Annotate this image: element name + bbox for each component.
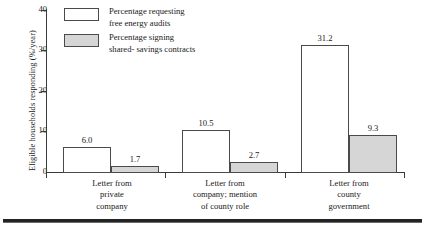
- bar-value-group1-series1: 2.7: [230, 151, 278, 160]
- legend-swatch-requesting-audits: [64, 8, 99, 21]
- bar-group2-series0: [301, 45, 349, 173]
- legend-label-1: Percentage signing shared- savings contr…: [109, 32, 195, 55]
- legend-label-0-line1: Percentage requesting: [109, 6, 185, 18]
- x-category-label-2: Letter from county government: [293, 178, 405, 212]
- bottom-rule-hairline: [3, 222, 422, 223]
- x-category-label-0: Letter from private company: [56, 178, 168, 212]
- legend-label-1-line2: shared- savings contracts: [109, 44, 195, 56]
- x-category-label-1-line3: of county role: [169, 201, 281, 212]
- y-tick-label-0: 0: [17, 167, 47, 176]
- x-category-label-2-line2: county: [293, 189, 405, 200]
- legend-swatch-signing-contracts: [64, 34, 99, 47]
- legend-label-1-line1: Percentage signing: [109, 32, 195, 44]
- bar-group2-series1: [349, 135, 397, 173]
- bar-value-group1-series0: 10.5: [182, 119, 230, 128]
- legend-label-0-line2: free energy audits: [109, 18, 185, 30]
- bar-value-group0-series0: 6.0: [63, 136, 111, 145]
- bar-group0-series0: [63, 147, 111, 173]
- x-category-label-0-line1: Letter from: [56, 178, 168, 189]
- x-tick-mark-0: [46, 173, 47, 178]
- x-category-label-1-line1: Letter from: [169, 178, 281, 189]
- bar-chart: Eligible households responding (%/year) …: [0, 0, 426, 229]
- bar-group1-series0: [182, 130, 230, 173]
- x-category-label-2-line1: Letter from: [293, 178, 405, 189]
- bar-value-group2-series1: 9.3: [349, 124, 397, 133]
- bar-group0-series1: [111, 166, 159, 173]
- legend-label-0: Percentage requesting free energy audits: [109, 6, 185, 29]
- bar-value-group0-series1: 1.7: [111, 155, 159, 164]
- x-category-label-1: Letter from company; mention of county r…: [169, 178, 281, 212]
- bar-value-group2-series0: 31.2: [301, 34, 349, 43]
- bar-group1-series1: [230, 162, 278, 173]
- x-tick-mark-2: [285, 173, 286, 178]
- x-category-label-0-line2: private: [56, 189, 168, 200]
- x-category-label-2-line3: government: [293, 201, 405, 212]
- x-category-label-0-line3: company: [56, 201, 168, 212]
- x-category-label-1-line2: company; mention: [169, 189, 281, 200]
- y-axis-line: [46, 9, 47, 173]
